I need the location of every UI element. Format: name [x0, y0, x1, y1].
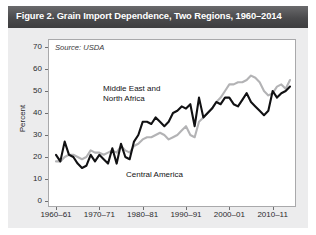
x-tick-label: 2010–11 [249, 210, 297, 219]
series-group [56, 76, 290, 168]
y-tick-mark [45, 179, 48, 180]
x-tick-label: 1980–81 [119, 210, 167, 219]
x-tick-label: 1970–71 [75, 210, 123, 219]
y-tick-label: 0 [20, 196, 42, 205]
y-tick-label: 70 [20, 42, 42, 51]
x-tick-mark [229, 207, 230, 210]
x-tick-mark [186, 207, 187, 210]
x-tick-mark [99, 207, 100, 210]
x-tick-mark [273, 207, 274, 210]
series-label-middle-east-north-africa: Middle East and North Africa [103, 84, 160, 104]
figure-title: Figure 2. Grain Import Dependence, Two R… [16, 10, 282, 21]
series-label-central-america: Central America [126, 170, 183, 180]
y-tick-label: 30 [20, 130, 42, 139]
x-tick-label: 1960–61 [32, 210, 80, 219]
y-tick-mark [45, 201, 48, 202]
series-label-line-1: Middle East and [103, 84, 160, 94]
figure-container: Figure 2. Grain Import Dependence, Two R… [8, 6, 308, 228]
y-axis-label: Percent [18, 89, 27, 149]
series-line-middle-east-and-north-africa [56, 87, 290, 168]
y-tick-mark [45, 69, 48, 70]
y-tick-label: 10 [20, 174, 42, 183]
series-line-central-america [56, 76, 290, 162]
x-tick-label: 1990–91 [162, 210, 210, 219]
figure-header-bar: Figure 2. Grain Import Dependence, Two R… [8, 6, 308, 28]
chart-svg [48, 39, 296, 207]
y-tick-label: 60 [20, 64, 42, 73]
y-tick-mark [45, 135, 48, 136]
y-tick-label: 50 [20, 86, 42, 95]
y-tick-label: 20 [20, 152, 42, 161]
x-tick-mark [143, 207, 144, 210]
series-label-line-2: North Africa [103, 94, 160, 104]
y-tick-mark [45, 157, 48, 158]
y-tick-label: 40 [20, 108, 42, 117]
y-tick-mark [45, 113, 48, 114]
y-tick-mark [45, 47, 48, 48]
x-tick-label: 2000–01 [205, 210, 253, 219]
x-tick-mark [56, 207, 57, 210]
y-tick-mark [45, 91, 48, 92]
